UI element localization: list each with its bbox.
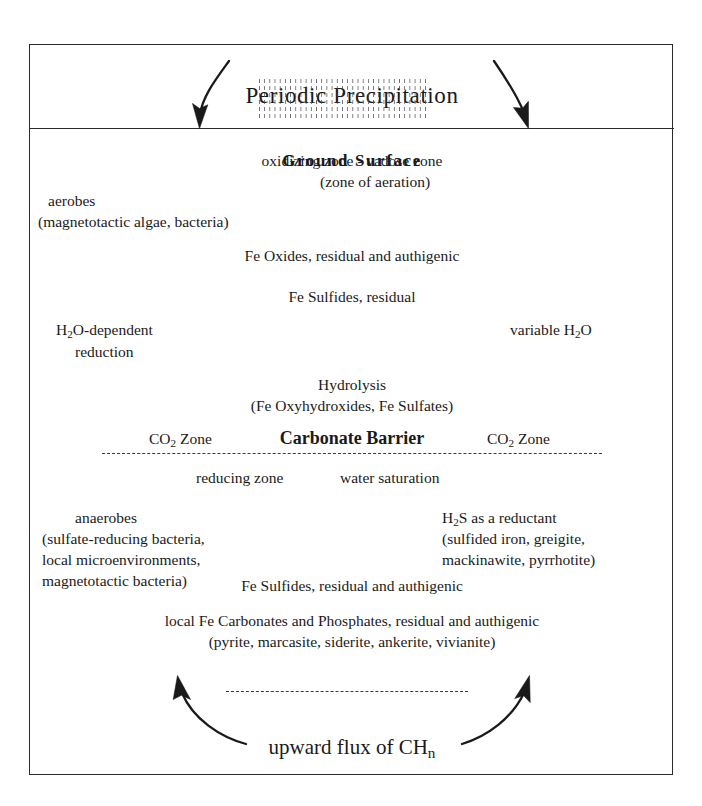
h2o-dependent-prefix: H xyxy=(56,321,67,338)
flux-arrow-right-head xyxy=(515,676,530,703)
co2-zone-right-suffix: Zone xyxy=(514,430,550,447)
anaerobes-detail-line-2: local microenvironments, xyxy=(42,550,200,569)
h2s-reductant-label: H2S as a reductant xyxy=(442,508,556,530)
ground-surface-line xyxy=(30,128,674,129)
h2s-suffix: S as a reductant xyxy=(459,509,557,526)
flux-arrow-left-head xyxy=(173,676,190,700)
co2-zone-right-label: CO2 Zone xyxy=(487,429,550,451)
anaerobes-detail-line-1: (sulfate-reducing bacteria, xyxy=(42,529,205,548)
diagram-frame: Periodic Precipitation Ground Surface ox… xyxy=(29,44,673,775)
hydrolysis-detail-label: (Fe Oxyhydroxides, Fe Sulfates) xyxy=(30,396,674,415)
variable-h2o-prefix: variable H xyxy=(510,321,575,338)
fe-oxides-label: Fe Oxides, residual and authigenic xyxy=(30,246,674,265)
carbonate-barrier-dashed-line xyxy=(102,453,602,454)
aerobes-detail-label: (magnetotactic algae, bacteria) xyxy=(38,212,229,231)
fe-sulfides-residual-label: Fe Sulfides, residual xyxy=(30,287,674,306)
h2s-detail-line-1: (sulfided iron, greigite, xyxy=(442,529,585,548)
co2-zone-right-prefix: CO xyxy=(487,430,509,447)
fe-carbonates-minerals-label: (pyrite, marcasite, siderite, ankerite, … xyxy=(30,632,674,651)
h2o-dependent-label: H2O-dependent xyxy=(56,320,153,342)
fe-sulfides-authigenic-label: Fe Sulfides, residual and authigenic xyxy=(30,576,674,595)
precipitation-hatch-pattern xyxy=(259,79,427,121)
upward-flux-subscript: n xyxy=(428,745,436,761)
water-saturation-label: water saturation xyxy=(340,468,439,487)
oxidizing-zone-label: oxidizing zone - vadose zone xyxy=(30,151,674,170)
reduction-label: reduction xyxy=(75,342,134,361)
aerobes-label: aerobes xyxy=(48,191,95,210)
reducing-zone-label: reducing zone xyxy=(196,468,283,487)
anaerobes-label: anaerobes xyxy=(75,508,137,527)
upward-flux-text: upward flux of CH xyxy=(269,735,428,759)
h2s-detail-line-2: mackinawite, pyrrhotite) xyxy=(442,550,595,569)
variable-h2o-label: variable H2O xyxy=(510,320,592,342)
fe-carbonates-phosphates-label: local Fe Carbonates and Phosphates, resi… xyxy=(30,611,674,630)
flux-dashed-line xyxy=(226,691,468,692)
carbonate-barrier-label: Carbonate Barrier xyxy=(30,427,674,450)
h2o-dependent-suffix: O-dependent xyxy=(73,321,153,338)
hydrolysis-label: Hydrolysis xyxy=(30,375,674,394)
h2s-prefix: H xyxy=(442,509,453,526)
zone-of-aeration-label: (zone of aeration) xyxy=(320,172,430,191)
upward-flux-label: upward flux of CHn xyxy=(30,735,674,762)
variable-h2o-suffix: O xyxy=(581,321,592,338)
